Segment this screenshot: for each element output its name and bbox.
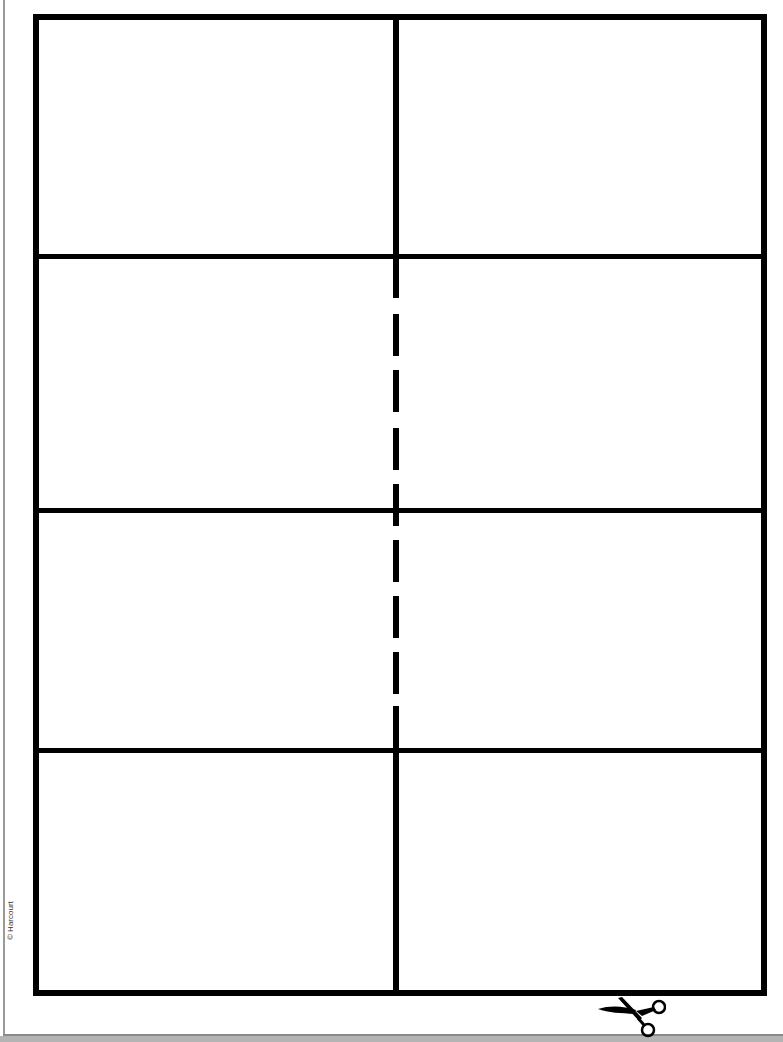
card-cell[interactable] xyxy=(399,259,761,508)
card-cell[interactable] xyxy=(39,513,393,748)
card-cell[interactable] xyxy=(39,20,393,254)
scissors-icon xyxy=(596,996,666,1038)
copyright-notice: © Harcourt xyxy=(6,880,18,940)
card-cell[interactable] xyxy=(399,753,761,990)
card-cell[interactable] xyxy=(39,259,393,508)
card-cell[interactable] xyxy=(39,753,393,990)
card-cell[interactable] xyxy=(399,20,761,254)
page-edge xyxy=(3,0,5,1036)
card-cell[interactable] xyxy=(399,513,761,748)
